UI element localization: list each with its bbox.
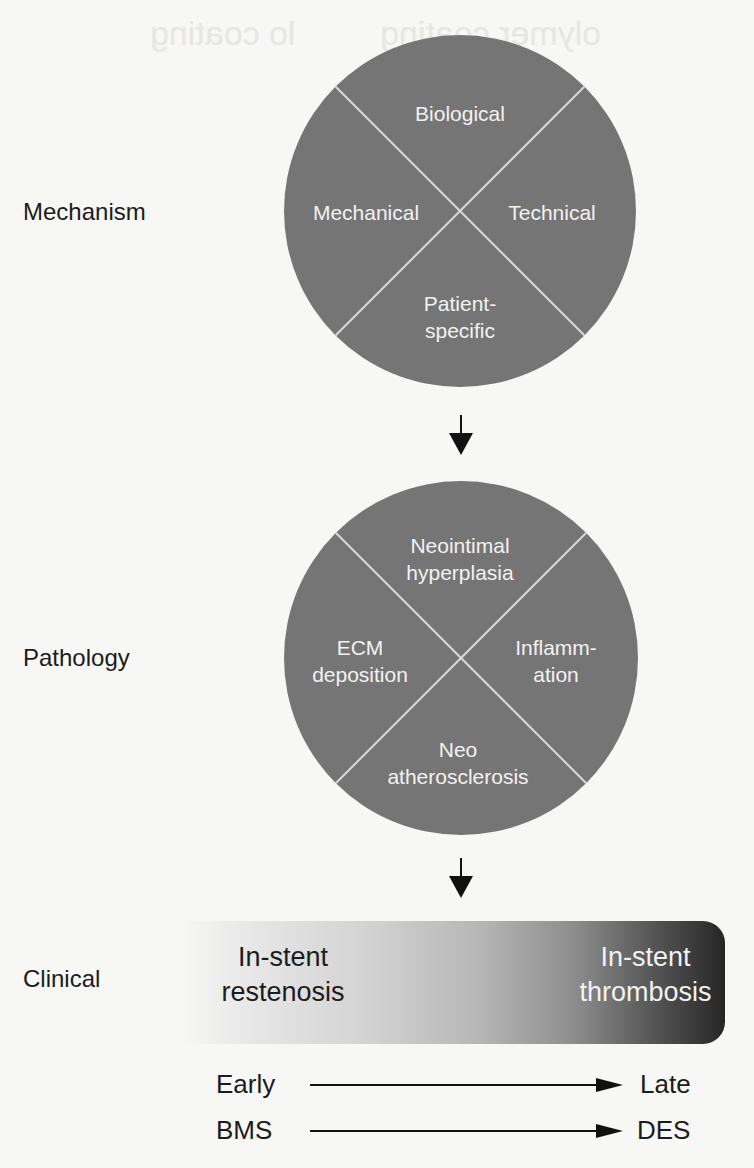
row-label-pathology: Pathology — [23, 644, 130, 672]
timeline-late-label: Late — [640, 1069, 691, 1100]
in-stent-restenosis-label: In-stent restenosis — [208, 940, 358, 1010]
thrombosis-line2: thrombosis — [573, 975, 718, 1010]
segment-technical: Technical — [508, 199, 596, 226]
mechanism-circle: Biological Mechanical Technical Patient-… — [284, 35, 636, 387]
timeline-des-label: DES — [637, 1115, 690, 1146]
bleed-through-text-left: lo coating — [150, 14, 296, 53]
row-label-mechanism: Mechanism — [23, 198, 146, 226]
timeline-bms-label: BMS — [216, 1115, 272, 1146]
segment-neo-line2: atherosclerosis — [387, 763, 528, 790]
segment-inflammation-line2: ation — [515, 661, 597, 688]
segment-patient-specific-line2: specific — [424, 317, 496, 344]
segment-patient-specific: Patient- specific — [424, 290, 496, 344]
segment-neoatherosclerosis: Neo atherosclerosis — [387, 736, 528, 790]
down-arrow-icon — [447, 856, 475, 900]
segment-inflammation: Inflamm- ation — [515, 634, 597, 688]
segment-neointimal-line1: Neointimal — [406, 532, 513, 559]
segment-biological: Biological — [415, 100, 505, 127]
segment-patient-specific-line1: Patient- — [424, 290, 496, 317]
restenosis-line2: restenosis — [208, 975, 358, 1010]
restenosis-line1: In-stent — [208, 940, 358, 975]
segment-neointimal-line2: hyperplasia — [406, 559, 513, 586]
right-arrow-icon — [310, 1077, 624, 1093]
segment-ecm-line2: deposition — [312, 661, 408, 688]
segment-ecm-deposition: ECM deposition — [312, 634, 408, 688]
segment-neointimal-hyperplasia: Neointimal hyperplasia — [406, 532, 513, 586]
row-label-clinical: Clinical — [23, 965, 100, 993]
segment-inflammation-line1: Inflamm- — [515, 634, 597, 661]
down-arrow-icon — [447, 413, 475, 457]
segment-mechanical: Mechanical — [313, 199, 419, 226]
segment-neo-line1: Neo — [387, 736, 528, 763]
in-stent-thrombosis-label: In-stent thrombosis — [573, 940, 718, 1010]
thrombosis-line1: In-stent — [573, 940, 718, 975]
pathology-circle: Neointimal hyperplasia ECM deposition In… — [284, 481, 638, 835]
timeline-early-label: Early — [216, 1069, 275, 1100]
right-arrow-icon — [310, 1123, 624, 1139]
segment-ecm-line1: ECM — [312, 634, 408, 661]
